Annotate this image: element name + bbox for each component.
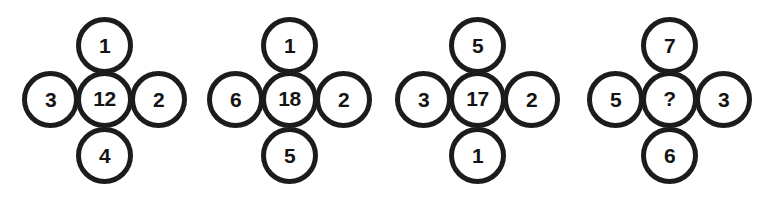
- cluster-1-center-circle: 12: [76, 71, 133, 128]
- cluster-4-center-value: ?: [663, 88, 675, 109]
- cluster-3-top-circle: 5: [449, 17, 506, 74]
- cluster-3-left-circle: 3: [395, 71, 452, 128]
- cluster-1-left-value: 3: [45, 89, 56, 110]
- cluster-2-bottom-circle: 5: [261, 127, 318, 184]
- cluster-3-bottom-value: 1: [472, 145, 483, 166]
- cluster-2-top-circle: 1: [261, 17, 318, 74]
- cluster-2-top-value: 1: [284, 35, 295, 56]
- cluster-2-left-circle: 6: [207, 71, 264, 128]
- cluster-4-top-circle: 7: [641, 17, 698, 74]
- cluster-4-left-circle: 5: [587, 71, 644, 128]
- cluster-2-right-circle: 2: [315, 71, 372, 128]
- puzzle-diagram: 1 3 12 2 4 1 6 18 2 5 5: [0, 0, 769, 199]
- cluster-2-left-value: 6: [230, 89, 241, 110]
- cluster-4-top-value: 7: [664, 35, 675, 56]
- cluster-4-left-value: 5: [610, 89, 621, 110]
- cluster-3-right-value: 2: [526, 89, 537, 110]
- number-cluster-1: 1 3 12 2 4: [18, 0, 192, 199]
- cluster-3-center-value: 17: [466, 88, 488, 109]
- cluster-4-right-circle: 3: [695, 71, 752, 128]
- cluster-1-right-value: 2: [153, 89, 164, 110]
- cluster-3-top-value: 5: [472, 35, 483, 56]
- cluster-1-left-circle: 3: [22, 71, 79, 128]
- cluster-1-bottom-circle: 4: [76, 127, 133, 184]
- cluster-4-right-value: 3: [718, 89, 729, 110]
- cluster-1-top-value: 1: [99, 35, 110, 56]
- cluster-2-center-circle: 18: [261, 71, 318, 128]
- cluster-3-bottom-circle: 1: [449, 127, 506, 184]
- cluster-2-center-value: 18: [278, 88, 300, 109]
- cluster-1-right-circle: 2: [130, 71, 187, 128]
- cluster-3-right-circle: 2: [503, 71, 560, 128]
- cluster-1-center-value: 12: [93, 88, 115, 109]
- cluster-4-center-circle-unknown: ?: [641, 71, 698, 128]
- cluster-1-bottom-value: 4: [99, 145, 110, 166]
- number-cluster-3: 5 3 17 2 1: [391, 0, 565, 199]
- cluster-4-bottom-circle: 6: [641, 127, 698, 184]
- cluster-1-top-circle: 1: [76, 17, 133, 74]
- number-cluster-2: 1 6 18 2 5: [203, 0, 377, 199]
- cluster-3-left-value: 3: [418, 89, 429, 110]
- cluster-2-right-value: 2: [338, 89, 349, 110]
- number-cluster-4: 7 5 ? 3 6: [583, 0, 757, 199]
- cluster-2-bottom-value: 5: [284, 145, 295, 166]
- cluster-4-bottom-value: 6: [664, 145, 675, 166]
- cluster-3-center-circle: 17: [449, 71, 506, 128]
